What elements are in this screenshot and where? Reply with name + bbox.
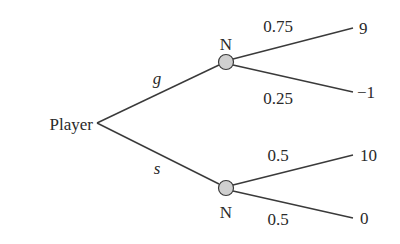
- probability-bottom-2: 0.5: [267, 210, 288, 229]
- edge-top-outcome-2: [233, 65, 353, 92]
- edge-bottom-outcome-1: [233, 155, 353, 185]
- edge-bottom-outcome-2: [233, 191, 353, 218]
- payoff-top-1: 9: [359, 19, 368, 38]
- payoff-bottom-2: 0: [360, 209, 369, 228]
- probability-top-2: 0.25: [263, 89, 293, 108]
- payoff-top-2: −1: [357, 83, 375, 102]
- probability-bottom-1: 0.5: [267, 146, 288, 165]
- payoff-bottom-1: 10: [360, 146, 377, 165]
- chance-node-bottom: [219, 181, 234, 196]
- root-player-label: Player: [50, 115, 94, 134]
- chance-node-top: [219, 55, 234, 70]
- action-g-label: g: [153, 69, 162, 88]
- edge-top-outcome-1: [233, 28, 353, 59]
- game-tree-diagram: Player g s N N 0.75 0.25 0.5 0.5 9 −1 10…: [0, 0, 400, 244]
- probability-top-1: 0.75: [263, 17, 293, 36]
- chance-node-bottom-label: N: [220, 203, 232, 222]
- chance-node-top-label: N: [220, 35, 232, 54]
- action-s-label: s: [154, 159, 161, 178]
